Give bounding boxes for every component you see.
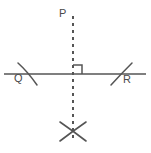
label-point-q: Q [14,72,23,84]
label-point-p: P [59,7,66,19]
construction-diagram: P Q R [0,0,151,153]
right-angle-square [73,65,82,74]
label-point-r: R [123,73,131,85]
geometry-figure-canvas: P Q R [0,0,151,153]
